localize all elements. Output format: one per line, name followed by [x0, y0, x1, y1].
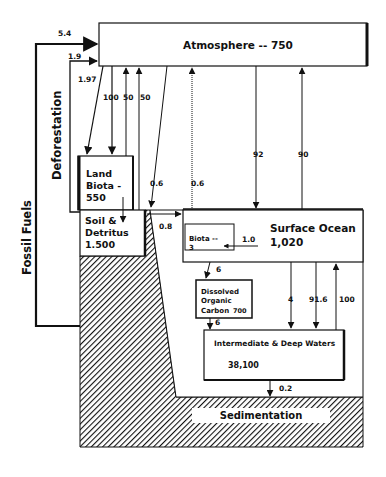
flux-ocean-to-atm: 90 [298, 151, 308, 159]
flux-photosynthesis: 100 [103, 94, 119, 102]
flux-downwelling-91-6: 91.6 [309, 296, 328, 304]
deep-waters-value: 38,100 [228, 362, 259, 370]
flux-land-resp-1: 50 [123, 94, 133, 102]
land-biota-line-3: 550 [86, 192, 121, 204]
flux-doc-to-deep: 6 [215, 319, 220, 327]
soil-line-1: Soil & [85, 215, 129, 227]
flux-to-doc: 6 [216, 266, 221, 274]
land-biota-label: Land Biota - 550 [86, 168, 121, 204]
doc-line-2: Organic [201, 297, 239, 306]
land-biota-line-1: Land [86, 168, 121, 180]
surface-ocean-label: Surface Ocean 1,020 [270, 222, 356, 249]
flux-sedimentation: 0.2 [279, 385, 292, 393]
soil-detritus-label: Soil & Detritus 1.500 [85, 215, 129, 251]
land-biota-line-2: Biota - [86, 180, 121, 192]
flux-land-resp-2: 50 [140, 94, 150, 102]
soil-line-3: 1.500 [85, 239, 129, 251]
sedimentation-label: Sedimentation [192, 408, 330, 423]
flux-atm-to-land: 1.97 [78, 76, 97, 84]
deforestation-label: Deforestation [50, 91, 64, 180]
flux-downwelling-4: 4 [288, 296, 293, 304]
doc-line-1: Dissolved [201, 288, 239, 297]
deep-waters-label: Intermediate & Deep Waters [214, 340, 335, 348]
marine-biota-line-1: Biota -- [189, 235, 218, 244]
surface-ocean-line-2: 1,020 [270, 236, 356, 250]
flux-ocean-to-biota: 1.0 [242, 236, 255, 244]
soil-line-2: Detritus [85, 227, 129, 239]
flux-deforestation: 1.9 [68, 53, 81, 61]
fossil-fuels-label: Fossil Fuels [20, 200, 34, 275]
deep-waters-box [204, 330, 344, 380]
atmosphere-label: Atmosphere -- 750 [183, 40, 293, 51]
doc-value: 700 [233, 308, 247, 315]
flux-atm-to-ocean: 92 [253, 151, 263, 159]
flux-runoff-vertical: 0.6 [191, 180, 204, 188]
marine-biota-line-2: 3 [189, 244, 218, 253]
flux-fossil-fuels: 5.4 [58, 30, 71, 38]
flux-soil-to-ocean: 0.8 [159, 223, 172, 231]
marine-biota-label: Biota -- 3 [189, 235, 218, 253]
flux-upwelling: 100 [339, 296, 355, 304]
surface-ocean-line-1: Surface Ocean [270, 222, 356, 236]
flux-runoff-diagonal: 0.6 [150, 180, 163, 188]
